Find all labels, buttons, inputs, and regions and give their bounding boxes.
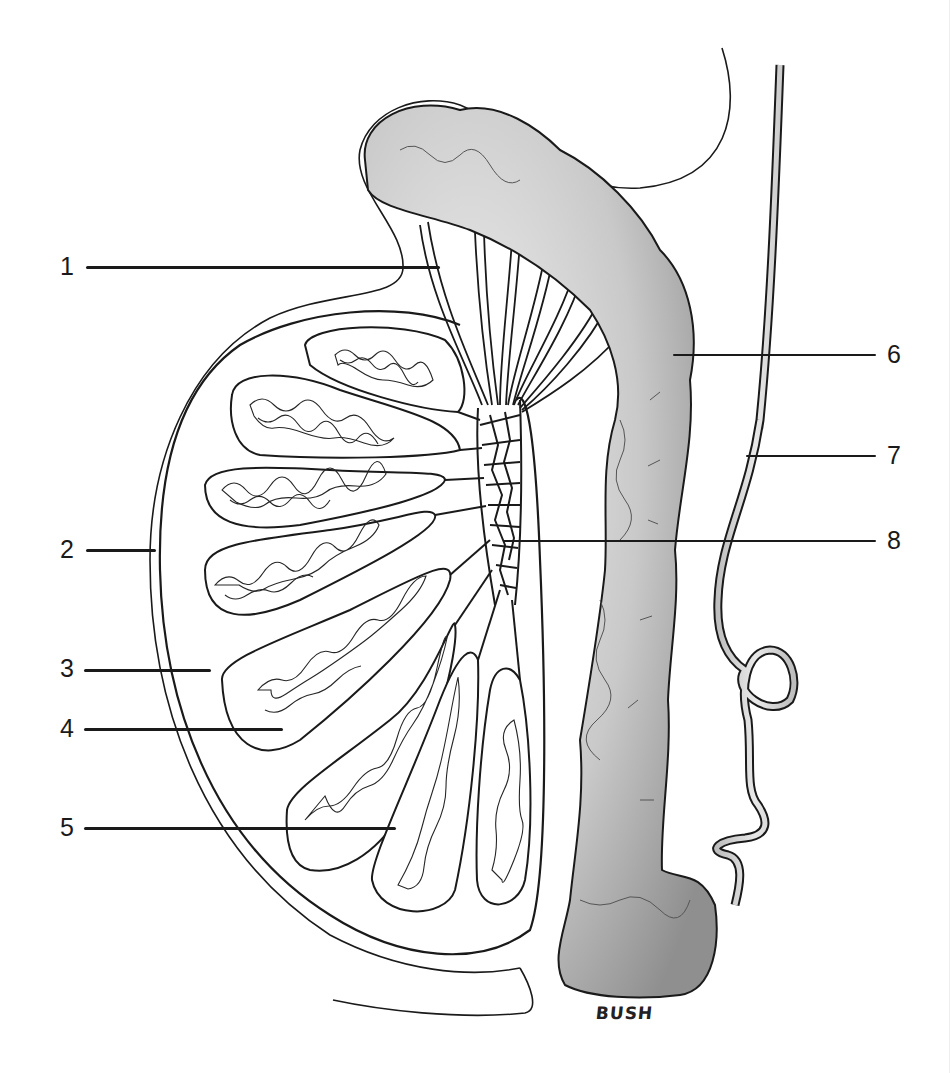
callout-line-1: [86, 266, 440, 269]
artist-signature: BUSH: [595, 1003, 654, 1023]
callout-label-2: 2: [60, 537, 74, 562]
callout-line-7: [746, 455, 876, 457]
callout-label-7: 7: [887, 443, 901, 468]
anatomical-illustration: [0, 0, 950, 1073]
callout-line-2: [86, 549, 156, 552]
callout-line-4: [84, 728, 283, 731]
callout-label-4: 4: [60, 716, 74, 741]
callout-label-1: 1: [60, 254, 74, 279]
callout-label-3: 3: [60, 656, 74, 681]
callout-label-8: 8: [887, 528, 901, 553]
callout-line-8: [503, 540, 876, 542]
ductus-deferens: [717, 65, 794, 905]
callout-line-5: [84, 827, 396, 830]
callout-label-5: 5: [60, 815, 74, 840]
callout-line-6: [673, 354, 876, 356]
callout-label-6: 6: [887, 342, 901, 367]
callout-line-3: [84, 669, 211, 672]
ductus-deferens-lumen: [717, 65, 794, 905]
